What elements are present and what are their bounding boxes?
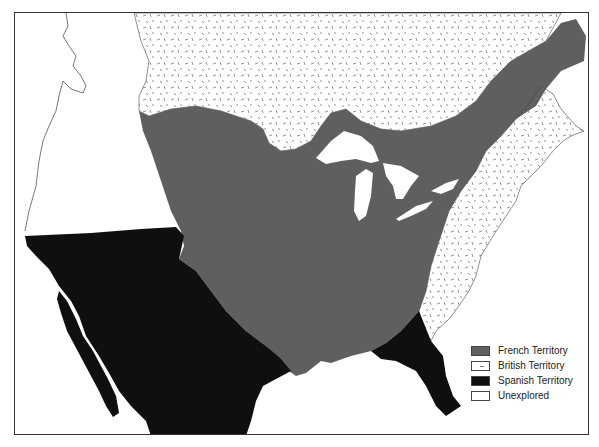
legend-item-spanish: Spanish Territory bbox=[471, 373, 573, 388]
legend-item-unexplored: Unexplored bbox=[471, 388, 573, 403]
legend-label: Unexplored bbox=[498, 388, 549, 403]
legend-label: Spanish Territory bbox=[498, 373, 573, 388]
french-swatch-icon bbox=[471, 346, 490, 356]
british-swatch-icon bbox=[471, 361, 490, 371]
legend-label: British Territory bbox=[498, 358, 565, 373]
map-legend: French Territory British Territory Spani… bbox=[471, 343, 573, 403]
unexplored-swatch-icon bbox=[471, 391, 490, 401]
spanish-swatch-icon bbox=[471, 376, 490, 386]
legend-item-french: French Territory bbox=[471, 343, 573, 358]
legend-item-british: British Territory bbox=[471, 358, 573, 373]
legend-label: French Territory bbox=[498, 343, 568, 358]
west-coastline bbox=[25, 13, 86, 231]
